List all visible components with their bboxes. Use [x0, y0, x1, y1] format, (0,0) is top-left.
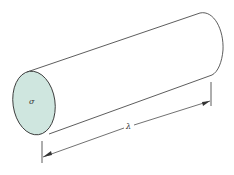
dimension-line-right — [134, 101, 210, 125]
cross-section-label: σ — [29, 98, 34, 106]
arrowhead-left-icon — [43, 151, 52, 157]
length-label: λ — [126, 123, 131, 131]
cylinder-top-edge — [27, 13, 200, 72]
dimension-line-left — [43, 128, 124, 157]
arrowhead-right-icon — [202, 101, 210, 106]
cylinder-far-end — [200, 13, 223, 75]
cylinder-drawing — [0, 0, 234, 175]
